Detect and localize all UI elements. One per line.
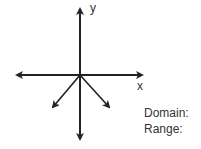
y-axis-label: y (90, 2, 96, 14)
lower-right-ray-arrow (80, 75, 109, 107)
domain-label: Domain: (144, 107, 189, 119)
range-label: Range: (144, 123, 183, 135)
lower-left-ray-arrow (53, 75, 80, 107)
x-axis-label: x (137, 80, 143, 92)
